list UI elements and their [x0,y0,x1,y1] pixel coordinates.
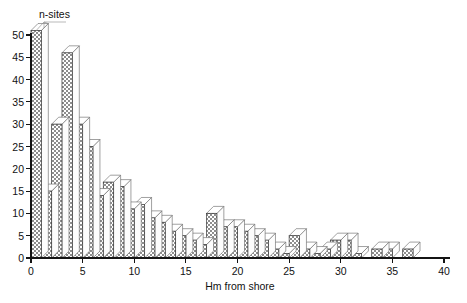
bar-side-face [62,117,69,258]
y-tick-label: 5 [18,230,24,242]
y-tick-label: 20 [12,163,24,175]
histogram-chart: 05101520253035404550 0510152025303540 n-… [0,0,467,303]
bars-layer [31,24,420,258]
chart-canvas: 05101520253035404550 0510152025303540 n-… [0,0,467,303]
x-tick-label: 20 [232,265,244,277]
bar-side-face [124,180,131,258]
x-tick-label: 25 [283,265,295,277]
bar-side-face [103,189,110,258]
bar-side-face [217,206,224,258]
bar-side-face [41,24,48,258]
y-tick-label: 0 [18,252,24,264]
bar-side-face [72,46,79,258]
y-tick-label: 40 [12,74,24,86]
x-axis-title: Hm from shore [205,280,275,292]
histogram-bar [31,24,48,258]
x-tick-label: 35 [387,265,399,277]
histogram-bar [403,242,420,258]
bar-front-face [403,249,413,258]
x-tick-label: 40 [438,265,450,277]
bar-side-face [52,184,59,258]
y-tick-label: 15 [12,185,24,197]
y-axis-title: n-sites [39,8,70,20]
bar-side-face [114,175,121,258]
bar-side-face [145,197,152,258]
x-tick-label: 5 [80,265,86,277]
y-tick-label: 50 [12,29,24,41]
x-tick-label: 10 [128,265,140,277]
bar-side-face [93,140,100,259]
y-tick-label: 45 [12,51,24,63]
bar-front-face [31,31,41,258]
x-axis-ticks: 0510152025303540 [28,258,450,277]
bar-side-face [83,117,90,258]
y-axis-ticks: 05101520253035404550 [12,29,31,264]
x-tick-label: 30 [335,265,347,277]
y-tick-label: 35 [12,96,24,108]
y-tick-label: 10 [12,207,24,219]
bar-side-face [134,202,141,258]
bar-front-face [372,249,382,258]
x-tick-label: 0 [28,265,34,277]
y-tick-label: 30 [12,118,24,130]
bar-side-face [155,211,162,258]
y-tick-label: 25 [12,141,24,153]
x-tick-label: 15 [180,265,192,277]
